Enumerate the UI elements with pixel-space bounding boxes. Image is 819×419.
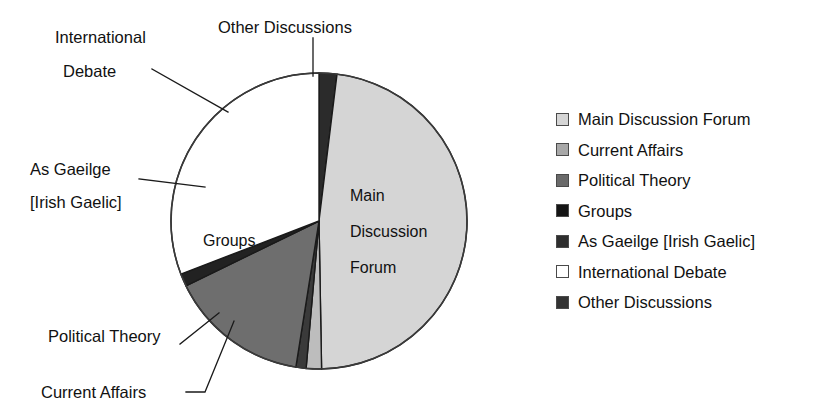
- legend-item-label: International Debate: [578, 264, 727, 281]
- chart-page: a stop has the same proportion as a same…: [0, 0, 819, 419]
- callout-irish-gaelic: [Irish Gaelic]: [30, 194, 122, 211]
- legend-swatch-icon: [556, 143, 569, 156]
- leader-line-international-debate: [152, 69, 228, 112]
- legend-swatch-icon: [556, 265, 569, 278]
- legend-swatch-icon: [556, 235, 569, 248]
- callout-debate: Debate: [63, 63, 116, 80]
- legend-swatch-icon: [556, 204, 569, 217]
- callout-international: International: [55, 29, 146, 46]
- legend-item-label: Other Discussions: [578, 294, 712, 311]
- legend-item[interactable]: Other Discussions: [556, 287, 814, 318]
- legend-item-label: Current Affairs: [578, 142, 683, 159]
- legend-item[interactable]: Current Affairs: [556, 135, 814, 166]
- leader-line-political-theory: [180, 313, 219, 344]
- callout-political-theory: Political Theory: [48, 328, 161, 345]
- legend-item[interactable]: Political Theory: [556, 165, 814, 196]
- legend: Main Discussion ForumCurrent AffairsPoli…: [556, 104, 814, 318]
- legend-swatch-icon: [556, 113, 569, 126]
- callout-other-discussions: Other Discussions: [218, 19, 352, 36]
- legend-item-label: As Gaeilge [Irish Gaelic]: [578, 233, 755, 250]
- legend-item[interactable]: As Gaeilge [Irish Gaelic]: [556, 226, 814, 257]
- legend-item-label: Groups: [578, 203, 632, 220]
- slice-label-groups: Groups: [203, 232, 255, 250]
- callout-current-affairs: Current Affairs: [41, 384, 146, 401]
- callout-as-gaeilge: As Gaeilge: [30, 161, 111, 178]
- legend-item[interactable]: Groups: [556, 196, 814, 227]
- legend-item-label: Main Discussion Forum: [578, 111, 750, 128]
- legend-item-label: Political Theory: [578, 172, 691, 189]
- slice-label-main-line2: Discussion: [350, 223, 427, 241]
- legend-item[interactable]: International Debate: [556, 257, 814, 288]
- pie-slice-main-discussion-forum[interactable]: [319, 74, 467, 369]
- legend-swatch-icon: [556, 174, 569, 187]
- legend-item[interactable]: Main Discussion Forum: [556, 104, 814, 135]
- pie-chart-area: International Debate Other Discussions A…: [0, 0, 530, 419]
- pie-slices-group: [171, 73, 467, 369]
- legend-swatch-icon: [556, 296, 569, 309]
- slice-label-main-line3: Forum: [350, 259, 396, 277]
- slice-label-main-line1: Main: [350, 187, 385, 205]
